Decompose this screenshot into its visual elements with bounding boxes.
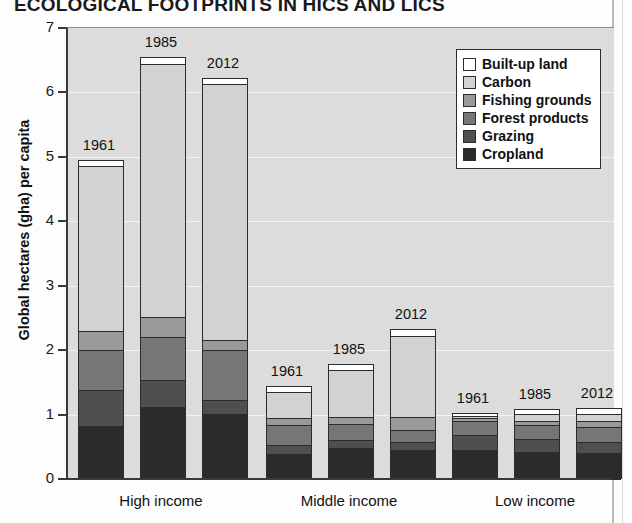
bar-segment-fishing-grounds[interactable] [391,417,435,430]
bar-year-label: 1985 [333,341,365,357]
bar-segment-forest-products[interactable] [577,427,621,442]
bar-segment-forest-products[interactable] [391,430,435,442]
stacked-bar[interactable] [576,408,622,479]
legend-swatch [463,148,476,161]
stacked-bar[interactable] [452,413,498,479]
y-axis-tick-label: 1 [0,405,54,422]
bar-segment-forest-products[interactable] [203,350,247,400]
bar-segment-forest-products[interactable] [79,350,123,390]
bar-segment-carbon[interactable] [141,64,185,317]
legend-swatch [463,112,476,125]
bar-segment-carbon[interactable] [203,84,247,340]
chart-title: ECOLOGICAL FOOTPRINTS IN HICS AND LICS [14,0,594,16]
y-axis-tick [58,414,66,416]
bar-segment-carbon[interactable] [515,414,559,421]
page-edge-line-secondary [622,0,623,523]
bar-segment-fishing-grounds[interactable] [329,417,373,424]
bar-segment-fishing-grounds[interactable] [79,331,123,351]
bar-segment-cropland[interactable] [515,452,559,480]
x-axis-group-label: Low income [495,492,575,509]
bar-segment-grazing[interactable] [267,445,311,453]
legend: Built-up landCarbonFishing groundsForest… [456,49,601,169]
stacked-bar[interactable] [514,409,560,479]
legend-label: Grazing [482,128,534,144]
y-axis-tick [58,285,66,287]
y-axis-tick [58,27,66,29]
x-axis-line [60,478,612,480]
stacked-bar[interactable] [266,386,312,479]
legend-item[interactable]: Carbon [463,73,592,91]
bar-segment-cropland[interactable] [453,450,497,480]
bar-year-label: 1961 [83,137,115,153]
bar-segment-fishing-grounds[interactable] [267,418,311,426]
bar-segment-carbon[interactable] [329,370,373,416]
bar-segment-cropland[interactable] [203,414,247,480]
bar-segment-cropland[interactable] [391,450,435,480]
y-axis-tick-label: 7 [0,18,54,35]
legend-swatch [463,58,476,71]
y-axis-tick-label: 6 [0,82,54,99]
legend-label: Forest products [482,110,589,126]
bar-segment-grazing[interactable] [141,380,185,407]
y-axis-tick [58,91,66,93]
stacked-bar[interactable] [202,78,248,479]
bar-year-label: 2012 [395,306,427,322]
bar-year-label: 2012 [207,55,239,71]
bar-segment-carbon[interactable] [391,336,435,417]
x-axis-group-label: High income [119,492,202,509]
bar-year-label: 1961 [271,363,303,379]
bar-segment-cropland[interactable] [267,454,311,480]
legend-label: Carbon [482,74,531,90]
stacked-bar[interactable] [328,364,374,479]
bar-segment-cropland[interactable] [79,426,123,480]
bar-year-label: 2012 [581,385,613,401]
y-axis-tick-label: 2 [0,340,54,357]
bar-segment-forest-products[interactable] [453,421,497,435]
bar-segment-grazing[interactable] [329,440,373,448]
bar-year-label: 1961 [457,390,489,406]
legend-label: Built-up land [482,56,568,72]
legend-item[interactable]: Fishing grounds [463,91,592,109]
legend-label: Fishing grounds [482,92,592,108]
bar-segment-grazing[interactable] [391,442,435,450]
bar-segment-grazing[interactable] [203,400,247,414]
bar-segment-cropland[interactable] [577,453,621,480]
legend-swatch [463,94,476,107]
bar-segment-cropland[interactable] [141,407,185,480]
bar-segment-grazing[interactable] [577,442,621,453]
y-axis-tick-label: 4 [0,211,54,228]
bar-year-label: 1985 [145,34,177,50]
bar-segment-forest-products[interactable] [515,425,559,439]
bar-segment-carbon[interactable] [267,392,311,418]
legend-item[interactable]: Built-up land [463,55,592,73]
y-axis-tick-label: 5 [0,147,54,164]
y-axis-tick-label: 3 [0,276,54,293]
bar-segment-carbon[interactable] [577,414,621,422]
y-axis-tick-label: 0 [0,469,54,486]
legend-label: Cropland [482,146,543,162]
bar-segment-grazing[interactable] [453,435,497,450]
bar-segment-fishing-grounds[interactable] [141,317,185,337]
bar-segment-grazing[interactable] [515,439,559,452]
bar-year-label: 1985 [519,386,551,402]
bar-segment-cropland[interactable] [329,448,373,480]
x-axis-group-label: Middle income [301,492,398,509]
stacked-bar[interactable] [78,160,124,479]
stacked-bar[interactable] [140,57,186,479]
bar-segment-carbon[interactable] [79,166,123,331]
stacked-bar[interactable] [390,329,436,479]
y-axis-tick [58,220,66,222]
bar-segment-forest-products[interactable] [267,425,311,445]
bar-segment-grazing[interactable] [79,390,123,425]
legend-item[interactable]: Cropland [463,145,592,163]
legend-item[interactable]: Grazing [463,127,592,145]
y-axis-tick [58,156,66,158]
bar-segment-fishing-grounds[interactable] [203,340,247,350]
legend-item[interactable]: Forest products [463,109,592,127]
legend-swatch [463,130,476,143]
legend-swatch [463,76,476,89]
y-axis-tick [58,349,66,351]
bar-segment-forest-products[interactable] [141,337,185,380]
bar-segment-forest-products[interactable] [329,424,373,440]
